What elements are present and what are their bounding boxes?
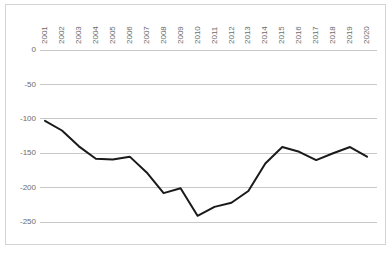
x-axis-tick-label: 2007: [142, 26, 151, 44]
x-axis-tick-label: 2011: [210, 26, 219, 44]
x-axis-tick-label: 2014: [260, 26, 269, 44]
x-axis-tick-label: 2015: [277, 26, 286, 44]
x-axis-tick-label: 2018: [328, 26, 337, 44]
x-axis-tick-label: 2008: [159, 26, 168, 44]
y-axis-tick-label: -150: [20, 148, 37, 157]
y-axis-tick-label: -100: [20, 114, 37, 123]
y-axis-tick-labels: 0-50-100-150-200-250: [20, 45, 37, 226]
x-axis-tick-label: 2010: [193, 26, 202, 44]
x-axis-tick-label: 2016: [294, 26, 303, 44]
y-axis-tick-label: -50: [24, 80, 36, 89]
x-axis-tick-label: 2017: [311, 26, 320, 44]
x-axis-tick-label: 2003: [74, 26, 83, 44]
y-axis-tick-label: -200: [20, 183, 37, 192]
x-axis-tick-label: 2006: [125, 26, 134, 44]
gridlines-group: [40, 50, 377, 222]
data-series-group: [45, 121, 367, 216]
x-axis-tick-label: 2004: [91, 26, 100, 44]
line-chart: 0-50-100-150-200-250 2001200220032004200…: [0, 0, 392, 256]
x-axis-tick-label: 2013: [243, 26, 252, 44]
x-axis-tick-label: 2009: [176, 26, 185, 44]
y-axis-tick-label: 0: [32, 45, 37, 54]
x-axis-tick-label: 2012: [227, 26, 236, 44]
x-axis-tick-label: 2005: [108, 26, 117, 44]
x-axis-tick-labels: 2001200220032004200520062007200820092010…: [40, 26, 371, 44]
x-axis-tick-label: 2020: [362, 26, 371, 44]
x-axis-tick-label: 2019: [345, 26, 354, 44]
y-axis-tick-label: -250: [20, 217, 37, 226]
data-line-series-1: [45, 121, 367, 216]
x-axis-tick-label: 2002: [57, 26, 66, 44]
x-axis-tick-label: 2001: [40, 26, 49, 44]
